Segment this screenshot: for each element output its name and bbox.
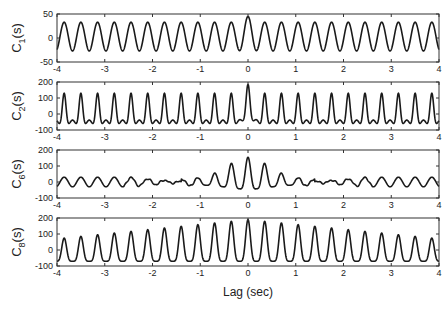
x-tick-label: 3 bbox=[389, 132, 394, 142]
y-axis-label: C8(s) bbox=[9, 227, 27, 257]
x-tick-label: -1 bbox=[196, 64, 204, 74]
x-tick-label: -2 bbox=[148, 268, 156, 278]
y-tick-label: -100 bbox=[35, 125, 53, 135]
x-tick-label: 0 bbox=[245, 64, 250, 74]
y-tick-label: 100 bbox=[38, 229, 53, 239]
y-tick-label: 100 bbox=[38, 93, 53, 103]
x-tick-label: 2 bbox=[341, 268, 346, 278]
x-tick-label: -4 bbox=[53, 268, 61, 278]
trace-line bbox=[57, 157, 439, 189]
x-tick-label: -1 bbox=[196, 268, 204, 278]
y-tick-label: 0 bbox=[48, 33, 53, 43]
x-tick-label: 0 bbox=[245, 132, 250, 142]
x-tick-label: 1 bbox=[293, 200, 298, 210]
y-tick-label: 100 bbox=[38, 161, 53, 171]
y-tick-label: 200 bbox=[38, 213, 53, 223]
x-tick-label: -4 bbox=[53, 132, 61, 142]
x-tick-label: -3 bbox=[101, 64, 109, 74]
y-tick-label: -100 bbox=[35, 261, 53, 271]
panel-c1s: -4-3-2-101234-50050C1(s) bbox=[9, 9, 442, 74]
y-tick-label: 200 bbox=[38, 77, 53, 87]
x-tick-label: 4 bbox=[436, 132, 441, 142]
x-tick-label: 4 bbox=[436, 268, 441, 278]
y-tick-label: 0 bbox=[48, 245, 53, 255]
y-tick-label: 200 bbox=[38, 145, 53, 155]
trace-line bbox=[57, 220, 439, 262]
y-tick-label: 50 bbox=[43, 9, 53, 19]
x-tick-label: -4 bbox=[53, 64, 61, 74]
y-axis-label: C1(s) bbox=[9, 23, 27, 53]
axes-frame bbox=[57, 14, 439, 62]
x-tick-label: 3 bbox=[389, 64, 394, 74]
x-tick-label: -3 bbox=[101, 200, 109, 210]
x-tick-label: 0 bbox=[245, 200, 250, 210]
x-tick-label: -1 bbox=[196, 200, 204, 210]
x-tick-label: 3 bbox=[389, 268, 394, 278]
panel-c2s: -4-3-2-101234-1000100200C2(s) bbox=[9, 77, 442, 142]
x-tick-label: -2 bbox=[148, 132, 156, 142]
x-tick-label: 3 bbox=[389, 200, 394, 210]
x-tick-label: 2 bbox=[341, 132, 346, 142]
x-tick-label: 1 bbox=[293, 64, 298, 74]
axes-frame bbox=[57, 218, 439, 266]
x-tick-label: 1 bbox=[293, 132, 298, 142]
x-tick-label: 2 bbox=[341, 64, 346, 74]
y-tick-label: 0 bbox=[48, 177, 53, 187]
y-axis-label: C6(s) bbox=[9, 159, 27, 189]
x-tick-label: 4 bbox=[436, 64, 441, 74]
x-tick-label: -4 bbox=[53, 200, 61, 210]
panel-c8s: -4-3-2-101234-1000100200C8(s) bbox=[9, 213, 442, 278]
trace-line bbox=[57, 84, 439, 123]
x-tick-label: -2 bbox=[148, 64, 156, 74]
trace-line bbox=[57, 16, 439, 51]
x-axis-label: Lag (sec) bbox=[223, 285, 273, 299]
x-tick-label: 0 bbox=[245, 268, 250, 278]
x-tick-label: 1 bbox=[293, 268, 298, 278]
axes-frame bbox=[57, 82, 439, 130]
y-tick-label: -100 bbox=[35, 193, 53, 203]
x-tick-label: -1 bbox=[196, 132, 204, 142]
x-tick-label: -2 bbox=[148, 200, 156, 210]
correlogram-figure: -4-3-2-101234-50050C1(s)-4-3-2-101234-10… bbox=[0, 0, 448, 309]
y-tick-label: -50 bbox=[40, 57, 53, 67]
x-tick-label: -3 bbox=[101, 268, 109, 278]
x-tick-label: -3 bbox=[101, 132, 109, 142]
x-tick-label: 2 bbox=[341, 200, 346, 210]
panel-c6s: -4-3-2-101234-1000100200C6(s) bbox=[9, 145, 442, 210]
x-tick-label: 4 bbox=[436, 200, 441, 210]
y-tick-label: 0 bbox=[48, 109, 53, 119]
y-axis-label: C2(s) bbox=[9, 91, 27, 121]
